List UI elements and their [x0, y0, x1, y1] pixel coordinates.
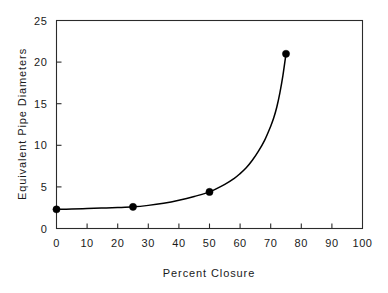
data-point-marker	[53, 206, 60, 213]
x-tick-label: 80	[295, 237, 308, 249]
x-axis-ticks	[87, 224, 332, 229]
x-tick-label: 100	[352, 237, 372, 249]
y-tick-label: 15	[34, 98, 47, 110]
x-tick-label: 50	[203, 237, 216, 249]
data-point-marker	[206, 188, 213, 195]
plot-frame	[57, 21, 363, 229]
x-tick-label: 60	[233, 237, 246, 249]
x-tick-label: 10	[80, 237, 93, 249]
x-tick-label: 40	[172, 237, 185, 249]
x-tick-label: 30	[142, 237, 155, 249]
x-tick-label: 70	[264, 237, 277, 249]
y-tick-label: 0	[41, 223, 48, 235]
chart-plot-area: 0510152025 0102030405060708090100 Percen…	[0, 0, 388, 293]
data-point-marker	[282, 50, 289, 57]
x-axis-tick-labels: 0102030405060708090100	[53, 237, 372, 249]
data-series-markers	[53, 50, 290, 213]
y-tick-label: 5	[41, 181, 48, 193]
x-tick-label: 20	[111, 237, 124, 249]
y-axis-title: Equivalent Pipe Diameters	[16, 48, 28, 200]
y-tick-label: 25	[34, 15, 47, 27]
chart-figure: 0510152025 0102030405060708090100 Percen…	[0, 0, 388, 293]
data-series-line	[57, 54, 287, 210]
x-axis-title: Percent Closure	[163, 267, 255, 279]
y-tick-label: 20	[34, 56, 47, 68]
x-tick-label: 90	[325, 237, 338, 249]
y-axis-tick-labels: 0510152025	[34, 15, 47, 235]
x-tick-label: 0	[53, 237, 60, 249]
y-axis-ticks	[57, 62, 62, 187]
data-point-marker	[129, 203, 136, 210]
y-tick-label: 10	[34, 139, 47, 151]
